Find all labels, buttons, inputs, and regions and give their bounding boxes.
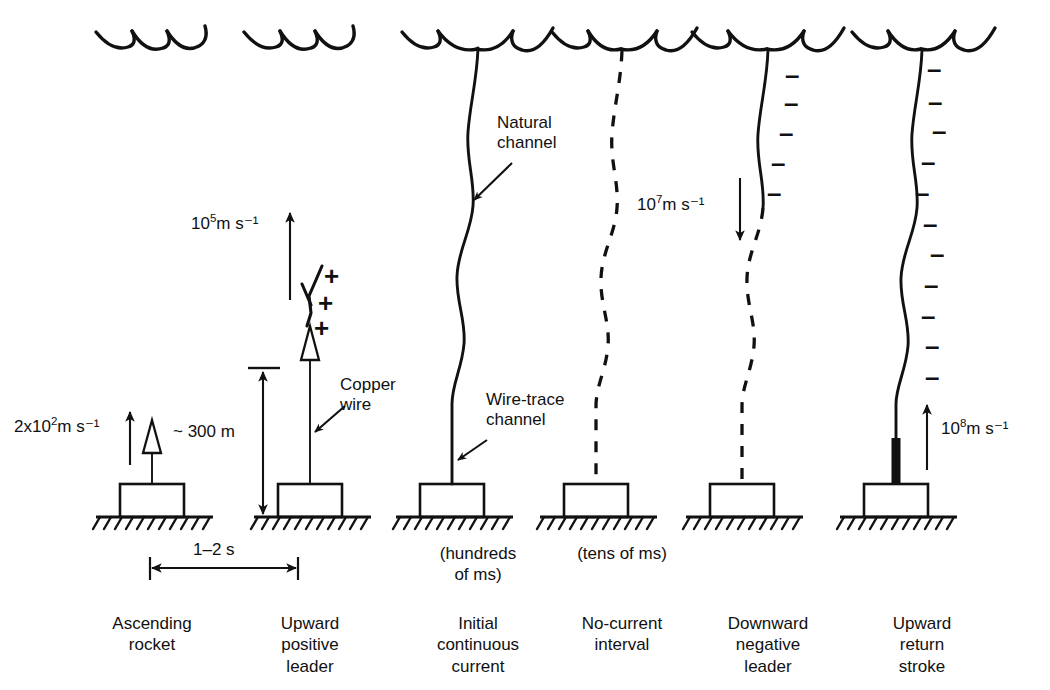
charge-sign-negative-p5-2: – — [784, 90, 798, 116]
ground-hatching-panel-5 — [683, 517, 800, 529]
launcher-box-panel-2 — [278, 484, 342, 517]
charge-sign-negative-p6-4: – — [921, 149, 935, 175]
panel-caption-ascending-rocket: Ascending rocket — [72, 613, 232, 656]
rocket-height-label: ~ 300 m — [173, 422, 235, 442]
panel-caption-initial-continuous-current: Initial continuous current — [398, 613, 558, 677]
velocity-label-panel-6-unit: m s⁻¹ — [966, 419, 1008, 438]
charge-sign-negative-p6-1: – — [927, 56, 941, 82]
cloud-base-group — [96, 26, 995, 51]
interval-duration-label: 1–2 s — [193, 540, 235, 560]
charge-sign-negative-p6-10: – — [925, 333, 939, 359]
charge-sign-negative-p6-8: – — [924, 272, 938, 298]
rocket-icon-panel-1 — [143, 420, 161, 453]
panel-caption-no-current-interval: No-current interval — [542, 613, 702, 656]
charge-sign-negative-p6-7: – — [930, 241, 944, 267]
velocity-label-panel-1-unit: m s⁻¹ — [57, 417, 99, 436]
velocity-label-panel-5: 107m s⁻¹ — [637, 194, 704, 215]
ground-hatching-panel-6 — [837, 517, 954, 529]
panel-caption-downward-negative-leader: Downward negative leader — [688, 613, 848, 677]
panel-caption-upward-return-stroke: Upward return stroke — [842, 613, 1002, 677]
charge-sign-negative-p6-2: – — [928, 89, 942, 115]
return-stroke-channel-panel-6 — [896, 50, 922, 440]
charge-sign-negative-p5-3: – — [779, 120, 793, 146]
duration-note-panel-4: (tens of ms) — [542, 544, 702, 565]
velocity-label-panel-6-text: 10 — [941, 419, 960, 438]
charge-sign-negative-p6-9: – — [921, 303, 935, 329]
lightning-sequence-figure: 2x102m s⁻¹ 105m s⁻¹ + + + ~ 300 m Copper… — [0, 0, 1050, 690]
natural-channel-annotation: Natural channel — [497, 113, 557, 154]
cloud-base-panel-1 — [96, 26, 206, 49]
velocity-label-panel-5-unit: m s⁻¹ — [662, 195, 704, 214]
panel-caption-upward-positive-leader: Upward positive leader — [230, 613, 390, 677]
cloud-base-panel-5 — [692, 28, 844, 51]
dashed-channel-panel-4 — [596, 50, 622, 484]
cloud-base-panel-4 — [552, 28, 697, 51]
negative-leader-dashed-panel-5 — [742, 208, 763, 484]
velocity-label-panel-2: 105m s⁻¹ — [191, 213, 258, 234]
velocity-label-panel-2-unit: m s⁻¹ — [216, 214, 258, 233]
ground-hatching-panel-4 — [537, 517, 654, 529]
charge-sign-negative-p5-5: – — [767, 180, 781, 206]
natural-channel-arrow-panel-3 — [474, 163, 512, 200]
charge-sign-positive-1: + — [324, 263, 339, 289]
launcher-box-panel-1 — [120, 484, 184, 517]
charge-sign-negative-p6-6: – — [923, 211, 937, 237]
natural-channel-panel-3 — [452, 48, 478, 484]
duration-note-panel-3: (hundreds of ms) — [398, 544, 558, 585]
charge-sign-negative-p5-4: – — [771, 150, 785, 176]
panel-3-graphics — [0, 0, 513, 529]
velocity-label-panel-6: 108m s⁻¹ — [941, 418, 1008, 439]
diagram-canvas — [0, 0, 1050, 690]
velocity-label-panel-2-text: 10 — [191, 214, 210, 233]
charge-sign-negative-p5-1: – — [785, 62, 799, 88]
cloud-base-panel-6 — [852, 28, 995, 51]
charge-sign-positive-3: + — [314, 315, 329, 341]
charge-sign-negative-p6-3: – — [932, 118, 946, 144]
charge-sign-negative-p6-11: – — [925, 364, 939, 390]
ground-hatching-panel-3 — [393, 517, 510, 529]
ground-hatching-panel-1 — [93, 517, 210, 529]
velocity-label-panel-5-text: 10 — [637, 195, 656, 214]
wire-trace-channel-annotation: Wire-trace channel — [486, 390, 564, 431]
wire-trace-pointer-panel-3 — [458, 440, 487, 460]
copper-wire-annotation: Copper wire — [340, 375, 396, 416]
launcher-box-panel-6 — [864, 484, 928, 517]
ground-hatching-panel-2 — [251, 517, 368, 529]
launcher-box-panel-3 — [420, 484, 484, 517]
cloud-base-panel-2 — [244, 26, 354, 49]
velocity-label-panel-1-text: 2x10 — [14, 417, 51, 436]
launcher-box-panel-5 — [710, 484, 774, 517]
launcher-box-panel-4 — [564, 484, 628, 517]
velocity-label-panel-1: 2x102m s⁻¹ — [14, 416, 99, 437]
charge-sign-negative-p6-5: – — [915, 180, 929, 206]
